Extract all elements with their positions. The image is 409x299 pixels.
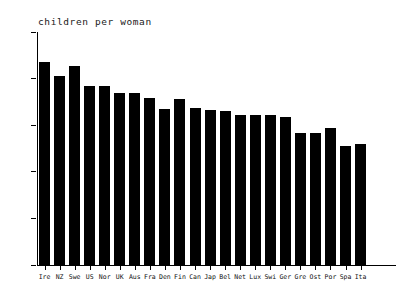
bar — [159, 109, 170, 265]
x-tick-mark — [90, 266, 91, 270]
x-tick-mark — [315, 266, 316, 270]
x-tick-mark — [75, 266, 76, 270]
bar — [129, 93, 140, 265]
x-tick-mark — [210, 266, 211, 270]
bar — [114, 93, 125, 265]
bar — [235, 115, 246, 265]
bar — [39, 62, 50, 265]
x-tick-mark — [135, 266, 136, 270]
x-tick-mark — [300, 266, 301, 270]
x-tick-mark — [180, 266, 181, 270]
bar — [54, 76, 65, 265]
x-tick-mark — [361, 266, 362, 270]
x-tick-mark — [330, 266, 331, 270]
bar — [99, 86, 110, 265]
x-tick-mark — [45, 266, 46, 270]
bar — [325, 128, 336, 265]
bar — [295, 133, 306, 265]
bar — [69, 66, 80, 265]
x-tick-label: Ita — [348, 273, 374, 281]
bar — [340, 146, 351, 265]
x-tick-mark — [195, 266, 196, 270]
bar — [190, 108, 201, 265]
bar — [84, 86, 95, 265]
x-tick-mark — [165, 266, 166, 270]
bar — [250, 115, 261, 265]
x-tick-mark — [346, 266, 347, 270]
x-tick-mark — [240, 266, 241, 270]
x-tick-mark — [105, 266, 106, 270]
bar — [144, 98, 155, 265]
x-tick-mark — [150, 266, 151, 270]
bar — [220, 111, 231, 265]
x-tick-mark — [285, 266, 286, 270]
x-tick-mark — [255, 266, 256, 270]
fertility-bar-chart: children per woman 00.511.522.5 IreNZSwe… — [0, 0, 409, 299]
x-tick-mark — [120, 266, 121, 270]
bars-layer: IreNZSweUSNorUKAusFraDenFinCanJapBelNetL… — [0, 0, 409, 299]
bar — [310, 133, 321, 265]
x-tick-mark — [60, 266, 61, 270]
x-tick-mark — [270, 266, 271, 270]
bar — [174, 99, 185, 265]
x-tick-mark — [225, 266, 226, 270]
bar — [265, 115, 276, 265]
bar — [280, 117, 291, 265]
bar — [205, 110, 216, 265]
bar — [355, 144, 366, 265]
